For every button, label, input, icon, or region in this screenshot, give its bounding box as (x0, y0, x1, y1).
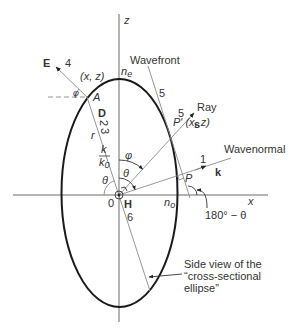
wavefront-label: Wavefront (130, 54, 180, 66)
caption-line-3: ellipse” (184, 282, 219, 294)
k-vector-label: k (215, 166, 222, 178)
index-ellipsoid-diagram: z x 0 ne no E 4 (x, z) φ A D 2 3 r k k0 … (0, 0, 294, 331)
supplement-angle-label: 180° − θ (205, 209, 246, 221)
phi-label: φ (125, 149, 132, 161)
point-p-label: P (185, 172, 193, 184)
radius-r-label: r (91, 129, 96, 141)
ray-label: Ray (197, 101, 217, 113)
origin-dot (118, 194, 121, 197)
ratio-numerator: k (101, 143, 107, 155)
a-coords-label: (x, z) (80, 70, 105, 82)
phi-small-label: φ (73, 88, 79, 98)
wavenormal-label: Wavenormal (224, 143, 285, 155)
d-vector-label: D (98, 107, 106, 119)
caption-line-1: Side view of the (184, 258, 262, 270)
d-vector-number-b: 3 (99, 128, 111, 134)
d-vector-number-a: 2 (98, 120, 110, 126)
x-axis-label: x (247, 195, 254, 207)
k-vector-number: 1 (200, 153, 206, 165)
supplement-angle-arc (188, 186, 197, 195)
theta-label: θ (123, 167, 129, 179)
h-vector-label: H (124, 198, 132, 210)
h-vector-number: 6 (127, 211, 133, 223)
e-vector-number: 4 (65, 57, 71, 69)
ratio-denominator: k0 (99, 156, 110, 170)
wavefront-number: 5 (159, 87, 165, 99)
origin-label: 0 (108, 197, 114, 209)
e-vector-label: E (43, 57, 50, 69)
n-o-label: no (164, 196, 175, 210)
theta-left-label: θ (102, 174, 108, 186)
caption-line-2: “cross-sectional (184, 270, 261, 282)
point-p-prime-label: P′ (x, z) (173, 116, 210, 128)
z-axis-label: z (123, 14, 130, 26)
n-e-label: ne (121, 65, 132, 79)
point-a-label: A (92, 91, 100, 103)
caption-pointer-arrow (149, 274, 182, 277)
k-vector-arrow (195, 166, 206, 170)
supplement-angle-pointer (197, 190, 207, 208)
